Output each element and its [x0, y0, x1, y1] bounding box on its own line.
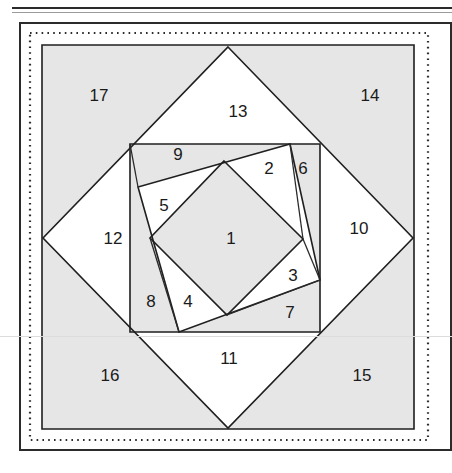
region-label-6: 6 [298, 159, 307, 178]
region-label-11: 11 [220, 349, 238, 368]
region-label-9: 9 [173, 145, 182, 164]
region-label-2: 2 [264, 159, 273, 178]
region-label-7: 7 [285, 303, 294, 322]
region-label-14: 14 [361, 86, 380, 105]
region-label-17: 17 [90, 86, 109, 105]
region-label-4: 4 [183, 292, 192, 311]
region-label-13: 13 [229, 102, 248, 121]
region-label-16: 16 [101, 366, 120, 385]
region-label-3: 3 [288, 266, 297, 285]
nested-squares-figure: 1 2 3 4 5 6 7 8 9 10 11 12 13 14 15 16 1… [0, 0, 452, 473]
region-label-12: 12 [104, 229, 123, 248]
region-label-5: 5 [159, 196, 168, 215]
region-label-1: 1 [226, 229, 235, 248]
region-label-15: 15 [353, 366, 372, 385]
region-label-10: 10 [350, 219, 369, 238]
region-label-8: 8 [146, 292, 155, 311]
figure-page: 1 2 3 4 5 6 7 8 9 10 11 12 13 14 15 16 1… [0, 0, 452, 473]
